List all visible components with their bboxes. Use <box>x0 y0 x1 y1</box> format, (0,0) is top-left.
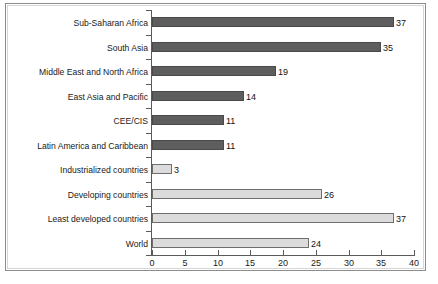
x-axis-tick-label: 30 <box>337 257 361 269</box>
category-label: East Asia and Pacific <box>3 92 148 102</box>
bar <box>152 213 394 223</box>
x-axis-tick-label: 40 <box>402 257 426 269</box>
x-axis-tick-label: 5 <box>173 257 197 269</box>
bar <box>152 42 381 52</box>
x-axis-tick <box>185 250 186 255</box>
bar <box>152 164 172 174</box>
y-axis-tick <box>146 255 152 256</box>
bar-value-label: 26 <box>324 190 334 200</box>
bar-value-label: 14 <box>246 92 256 102</box>
bar <box>152 66 276 76</box>
bar-value-label: 37 <box>396 214 406 224</box>
bar <box>152 189 322 199</box>
x-axis-tick <box>152 250 153 255</box>
bar-value-label: 3 <box>174 165 179 175</box>
x-axis-tick <box>414 250 415 255</box>
bar <box>152 140 224 150</box>
y-axis-tick <box>146 157 152 158</box>
y-axis-tick <box>146 10 152 11</box>
bar-value-label: 19 <box>278 67 288 77</box>
x-axis-tick <box>381 250 382 255</box>
category-label: South Asia <box>3 43 148 53</box>
category-label: Latin America and Caribbean <box>3 141 148 151</box>
bar-value-label: 24 <box>311 239 321 249</box>
category-label: World <box>3 239 148 249</box>
x-axis-tick <box>283 250 284 255</box>
category-label: Middle East and North Africa <box>3 67 148 77</box>
category-label: Least developed countries <box>3 214 148 224</box>
category-label: Developing countries <box>3 190 148 200</box>
x-axis-tick <box>316 250 317 255</box>
bar <box>152 238 309 248</box>
y-axis-tick <box>146 231 152 232</box>
x-axis-tick-label: 0 <box>140 257 164 269</box>
bar-value-label: 11 <box>226 141 235 151</box>
y-axis-tick <box>146 133 152 134</box>
y-axis-tick <box>146 206 152 207</box>
x-axis-tick-label: 35 <box>369 257 393 269</box>
y-axis-tick <box>146 59 152 60</box>
y-axis-tick <box>146 35 152 36</box>
category-label: Industrialized countries <box>3 165 148 175</box>
category-label: CEE/CIS <box>3 116 148 126</box>
x-axis-tick <box>250 250 251 255</box>
bar-value-label: 35 <box>383 43 393 53</box>
y-axis-tick <box>146 182 152 183</box>
x-axis-tick-label: 10 <box>206 257 230 269</box>
x-axis-tick-label: 25 <box>304 257 328 269</box>
bar-value-label: 11 <box>226 116 235 126</box>
y-axis-tick <box>146 84 152 85</box>
bar <box>152 17 394 27</box>
bar-value-label: 37 <box>396 18 406 28</box>
x-axis-tick-label: 20 <box>271 257 295 269</box>
bar <box>152 91 244 101</box>
x-axis-line <box>151 255 415 256</box>
bar <box>152 115 224 125</box>
bar-chart-plot-area: 0510152025303540 Sub-Saharan AfricaSouth… <box>0 0 438 284</box>
x-axis-tick <box>218 250 219 255</box>
y-axis-tick <box>146 108 152 109</box>
x-axis-tick-label: 15 <box>238 257 262 269</box>
x-axis-tick <box>349 250 350 255</box>
category-label: Sub-Saharan Africa <box>3 18 148 28</box>
